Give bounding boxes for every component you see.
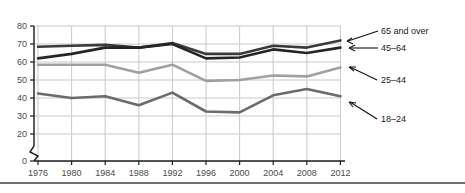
series-annotation-label: 25–44 bbox=[381, 75, 406, 85]
x-axis bbox=[34, 161, 345, 165]
x-tick-label: 1996 bbox=[196, 168, 216, 178]
series-lines bbox=[38, 40, 340, 112]
y-tick-label: 50 bbox=[17, 75, 27, 85]
series-annotation-label: 65 and over bbox=[381, 26, 429, 36]
series-annotations: 65 and over 45–64 25–44 18–24 bbox=[381, 26, 429, 124]
x-tick-label: 2012 bbox=[330, 168, 350, 178]
x-tick-label: 1980 bbox=[62, 168, 82, 178]
series-annotation-label: 45–64 bbox=[381, 43, 406, 53]
x-tick-labels: 1976 1980 1984 1988 1992 1996 2000 2004 … bbox=[28, 168, 350, 178]
series-annotation-label: 18–24 bbox=[381, 114, 406, 124]
x-tick-label: 1988 bbox=[129, 168, 149, 178]
series-line-18-24 bbox=[38, 89, 340, 112]
x-tick-label: 1984 bbox=[95, 168, 115, 178]
x-tick-label: 2004 bbox=[263, 168, 283, 178]
bottom-divider bbox=[0, 182, 465, 184]
chart-svg: 80 70 60 50 40 30 20 0 1976 1980 bbox=[0, 0, 465, 193]
series-line-25-44 bbox=[38, 65, 340, 81]
annotation-leaders bbox=[347, 31, 378, 119]
x-tick-label: 2000 bbox=[230, 168, 250, 178]
x-tick-label: 2008 bbox=[297, 168, 317, 178]
y-tick-label: 20 bbox=[17, 129, 27, 139]
y-tick-label: 80 bbox=[17, 21, 27, 31]
gridlines-horizontal bbox=[34, 26, 341, 134]
x-tick-label: 1992 bbox=[162, 168, 182, 178]
y-tick-labels: 80 70 60 50 40 30 20 0 bbox=[17, 21, 27, 166]
line-chart: 80 70 60 50 40 30 20 0 1976 1980 bbox=[0, 0, 465, 193]
y-tick-label: 0 bbox=[22, 156, 27, 166]
y-tick-label: 60 bbox=[17, 57, 27, 67]
y-tick-label: 70 bbox=[17, 39, 27, 49]
y-tick-label: 40 bbox=[17, 93, 27, 103]
x-tick-label: 1976 bbox=[28, 168, 48, 178]
y-tick-label: 30 bbox=[17, 111, 27, 121]
